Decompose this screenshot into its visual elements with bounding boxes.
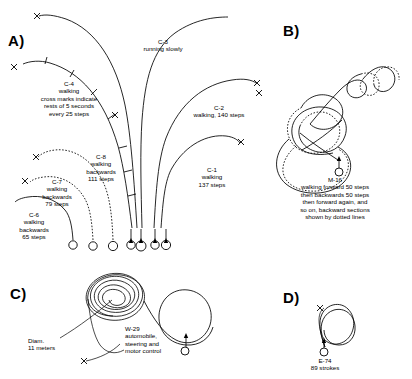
track-caption-c6: C-6 walking backwards 65 steps [6,211,62,241]
panel-label-c: C) [10,285,26,302]
track-caption-c4: C-4 walking cross marks indicate rests o… [18,80,120,117]
track-caption-c3: C-3 running slowly [120,38,206,53]
track-end-marker-e74 [317,305,323,311]
track-path-e74-loop2 [321,309,355,345]
track-caption-m16: M-16 walking forward 50 steps then backw… [265,176,405,220]
panel-label-b: B) [283,22,299,39]
track-caption-c1: C-1 walking 137 steps [182,166,242,188]
start-marker-e74 [320,338,328,356]
track-caption-e74: E-74 89 strokes [297,357,353,372]
track-caption-c7: C-7 walking backwards 79 steps [29,178,85,208]
figure-root: A) B) C) D) C-3 running slowly C-4 walki… [0,0,412,379]
track-caption-c2: C-2 walking, 140 steps [180,104,258,119]
track-caption-w29: W-29 automobile, steering and motor cont… [125,325,187,355]
diameter-annotation: Diam. 11 meters [28,337,74,352]
panel-label-a: A) [8,32,24,49]
panel-label-d: D) [283,289,299,306]
